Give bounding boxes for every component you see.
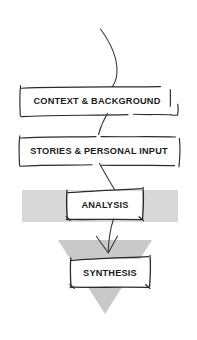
- node-synthesis-label: SYNTHESIS: [83, 268, 137, 278]
- diagram-canvas: CONTEXT & BACKGROUND STORIES & PERSONAL …: [0, 0, 197, 340]
- inflow-curve-connector: [101, 29, 118, 90]
- node-analysis-label: ANALYSIS: [81, 200, 128, 210]
- node-synthesis[interactable]: SYNTHESIS: [70, 255, 150, 288]
- node-stories-label: STORIES & PERSONAL INPUT: [30, 146, 168, 156]
- node-analysis[interactable]: ANALYSIS: [66, 187, 143, 220]
- context-to-stories-connector: [99, 114, 108, 135]
- stories-to-analysis-connector: [100, 164, 115, 190]
- funnel-diagram: CONTEXT & BACKGROUND STORIES & PERSONAL …: [0, 0, 197, 340]
- node-context[interactable]: CONTEXT & BACKGROUND: [19, 86, 178, 117]
- node-stories[interactable]: STORIES & PERSONAL INPUT: [19, 136, 180, 167]
- node-context-label: CONTEXT & BACKGROUND: [33, 96, 160, 106]
